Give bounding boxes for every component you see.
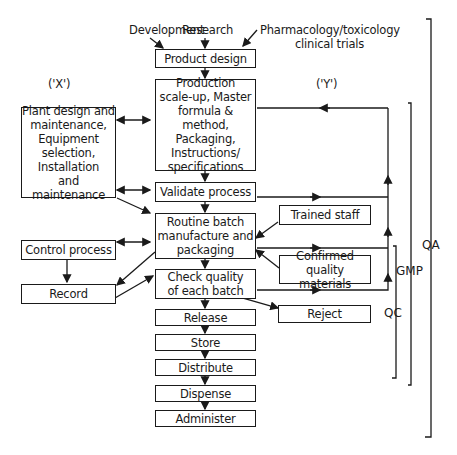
validate-text: Validate process [160,185,251,199]
control-text: Control process [25,243,111,257]
release-box: Release [155,309,256,326]
check-line: of each batch [168,284,244,298]
dispense-box: Dispense [155,385,256,402]
production-box: Production scale-up, Master formula & me… [155,79,256,171]
reject-text: Reject [307,307,341,321]
clinical-trials-label: clinical trials [295,37,364,51]
plant-line: maintenance, [30,118,107,132]
qc-label: QC [384,306,402,320]
confirmed-materials-box: Confirmed quality materials [279,255,371,284]
trained-staff-box: Trained staff [279,205,371,225]
qa-label: QA [422,238,440,252]
production-line: Packaging, [175,132,235,146]
record-text: Record [49,287,88,301]
plant-line: Installation [38,160,99,174]
research-label: Research [182,23,233,37]
distribute-text: Distribute [178,361,233,375]
pharmacology-label: Pharmacology/toxicology [260,23,400,37]
product-design-text: Product design [164,52,247,66]
marker-y: ('Y') [316,77,337,91]
production-line: scale-up, Master [160,90,252,104]
distribute-box: Distribute [155,359,256,376]
record-box: Record [21,284,116,304]
plant-design-box: Plant design and maintenance, Equipment … [21,107,116,198]
production-line: Production [176,76,235,90]
check-line: Check quality [168,270,244,284]
validate-process-box: Validate process [155,182,256,202]
production-line: specifications [168,160,244,174]
administer-box: Administer [155,410,256,427]
routine-line: manufacture and [158,229,254,243]
store-text: Store [191,336,220,350]
plant-line: and maintenance [22,174,115,202]
administer-text: Administer [175,412,235,426]
confirmed-line: materials [299,277,351,291]
routine-line: packaging [177,243,234,257]
store-box: Store [155,334,256,351]
control-process-box: Control process [21,240,116,260]
release-text: Release [184,311,228,325]
production-line: Instructions/ [171,146,240,160]
routine-batch-box: Routine batch manufacture and packaging [155,213,256,259]
plant-line: Equipment [38,132,99,146]
plant-line: Plant design and [22,104,115,118]
marker-x: ('X') [48,77,70,91]
routine-line: Routine batch [167,215,244,229]
confirmed-line: Confirmed quality [280,249,370,277]
production-line: formula & method, [156,104,255,132]
check-quality-box: Check quality of each batch [155,269,256,299]
trained-staff-text: Trained staff [291,208,360,222]
dispense-text: Dispense [180,387,231,401]
gmp-label: GMP [396,264,423,278]
product-design-box: Product design [155,49,256,68]
plant-line: selection, [42,146,95,160]
reject-box: Reject [278,305,371,323]
